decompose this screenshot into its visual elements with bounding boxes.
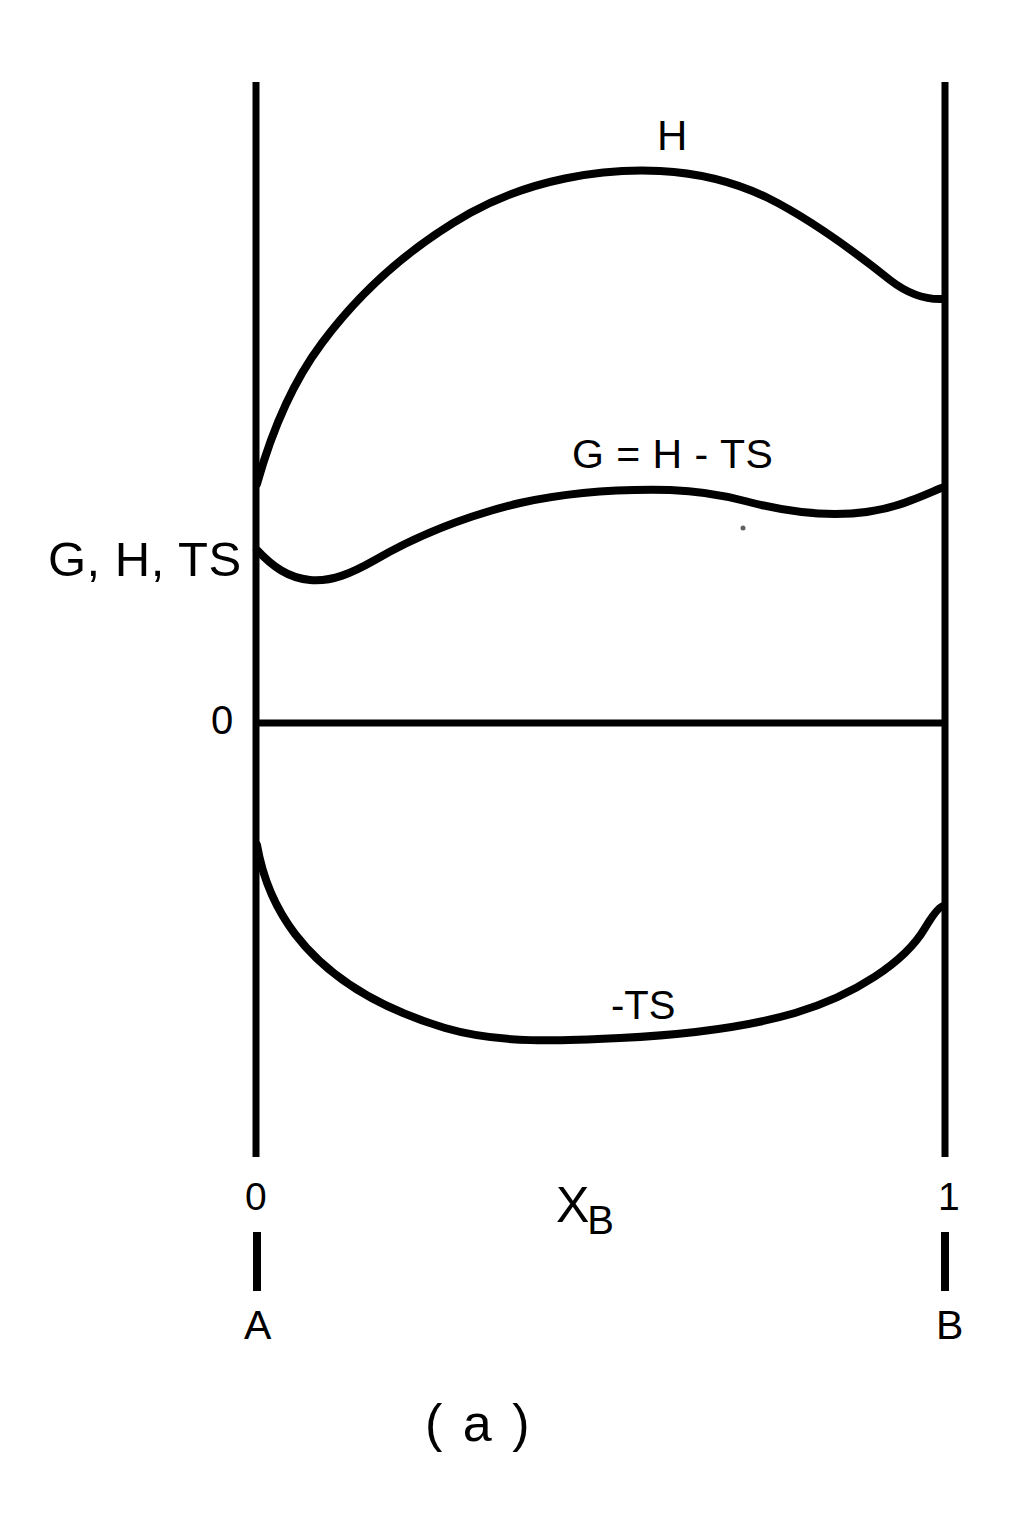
y-axis-zero-tick-label: 0 <box>211 700 233 740</box>
figure-canvas: G, H, TS 0 H G = H - TS -TS 0 1 XB A B (… <box>0 0 1015 1533</box>
enthalpy-curve-label: H <box>657 115 687 157</box>
gibbs-curve-label: G = H - TS <box>572 434 773 475</box>
endmember-label-b: B <box>936 1305 963 1346</box>
x-axis-tick-label-left: 0 <box>245 1177 267 1216</box>
figure-caption: ( a ) <box>425 1397 532 1449</box>
free-energy-diagram <box>0 0 1015 1533</box>
x-axis-tick-label-right: 1 <box>938 1177 960 1216</box>
x-axis-label-subscript: B <box>587 1198 614 1242</box>
y-axis-label: G, H, TS <box>48 535 242 584</box>
endmember-label-a: A <box>244 1305 271 1346</box>
scan-speck-artifact <box>741 526 746 531</box>
x-axis-label: XB <box>556 1180 614 1240</box>
gibbs-curve <box>257 487 944 580</box>
entropy-term-curve-label: -TS <box>611 985 675 1025</box>
x-axis-label-main: X <box>556 1177 589 1233</box>
entropy-term-curve <box>257 845 944 1040</box>
